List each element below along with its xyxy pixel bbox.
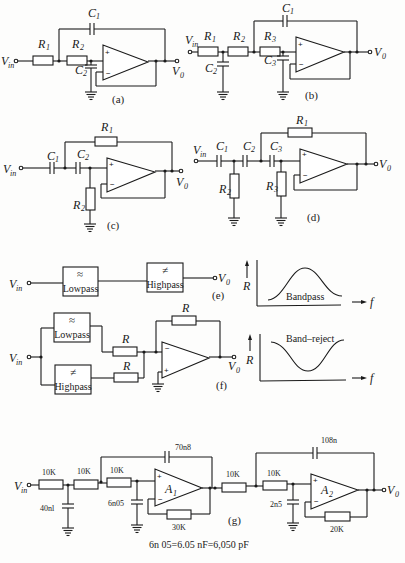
- svg-text:10K: 10K: [226, 470, 240, 479]
- x-axis-arrow-icon: [361, 376, 367, 380]
- circuit-figure: V in R 1 R 2 C 1 C 2 + −: [0, 0, 405, 563]
- svg-text:−: −: [106, 69, 111, 78]
- svg-text:−: −: [314, 497, 319, 506]
- svg-text:0: 0: [236, 366, 240, 375]
- svg-text:in: in: [16, 284, 22, 293]
- svg-text:+: +: [298, 40, 303, 49]
- svg-text:70n8: 70n8: [175, 443, 191, 452]
- panel-label-g: (g): [228, 514, 241, 527]
- svg-text:10K: 10K: [267, 469, 281, 478]
- vin-terminal: [14, 59, 18, 63]
- resistor-r-lowpass: [113, 347, 137, 356]
- svg-text:R: R: [218, 182, 227, 196]
- resistor-r1: [288, 128, 312, 137]
- svg-text:1: 1: [109, 126, 113, 135]
- panel-g: V in 10K 10K 10K 40nl 6n05: [14, 436, 399, 550]
- svg-text:R: R: [122, 359, 131, 373]
- lowpass-symbol-icon: ≈: [69, 314, 75, 326]
- panel-d: V in C 1 C 2 C 3 R 1 R 2: [193, 113, 391, 226]
- resistor-r-feedback: [172, 316, 196, 325]
- svg-text:+: +: [164, 366, 169, 375]
- svg-text:2: 2: [251, 145, 255, 154]
- svg-text:0: 0: [395, 490, 399, 499]
- svg-text:Lowpass: Lowpass: [63, 283, 99, 294]
- svg-text:in: in: [192, 40, 198, 49]
- svg-text:+: +: [157, 472, 162, 481]
- svg-text:0: 0: [180, 71, 184, 80]
- svg-text:20K: 20K: [330, 525, 344, 534]
- resistor-r2: [228, 47, 248, 56]
- resistor-10k-5: [263, 481, 287, 490]
- resistor-10k-1: [39, 480, 63, 489]
- svg-text:R: R: [71, 37, 80, 51]
- svg-text:2: 2: [329, 490, 333, 499]
- svg-text:1: 1: [55, 155, 59, 164]
- svg-text:−: −: [158, 495, 163, 504]
- svg-text:R: R: [242, 279, 251, 293]
- svg-text:1: 1: [290, 7, 294, 16]
- bandreject-curve: [271, 340, 344, 371]
- svg-text:in: in: [200, 150, 206, 159]
- svg-text:R: R: [232, 29, 241, 43]
- svg-text:Bandpass: Bandpass: [286, 291, 324, 302]
- panel-e: V in ≈ Lowpass ≠ Highpass V 0 (e): [9, 263, 230, 302]
- svg-text:2: 2: [85, 153, 89, 162]
- svg-text:R: R: [37, 37, 46, 51]
- svg-text:f: f: [370, 371, 375, 385]
- svg-text:Highpass: Highpass: [54, 381, 91, 392]
- panel-c: V in C 1 C 2 R 1 R 2 + −: [3, 120, 188, 232]
- svg-text:+: +: [105, 48, 110, 57]
- highpass-symbol-icon: ≠: [70, 366, 76, 378]
- svg-text:−: −: [303, 171, 308, 180]
- svg-text:−: −: [299, 60, 304, 69]
- svg-text:−: −: [165, 344, 170, 353]
- svg-text:6n05: 6n05: [108, 499, 124, 508]
- svg-text:Band–reject: Band–reject: [286, 333, 335, 344]
- panel-b: V in R 1 R 2 R 3 C 2 C 3: [185, 1, 386, 102]
- svg-text:R: R: [265, 179, 274, 193]
- resistor-10k-2: [74, 480, 98, 489]
- svg-text:2: 2: [81, 204, 85, 213]
- svg-text:in: in: [8, 61, 14, 70]
- svg-text:3: 3: [277, 145, 282, 154]
- panel-label-d: (d): [307, 211, 320, 224]
- svg-text:Highpass: Highpass: [146, 279, 183, 290]
- svg-text:3: 3: [271, 35, 276, 44]
- svg-text:R: R: [181, 301, 190, 315]
- svg-text:A: A: [320, 483, 329, 497]
- svg-text:R: R: [245, 353, 254, 367]
- panel-a: V in R 1 R 2 C 1 C 2 + −: [1, 6, 184, 106]
- svg-text:2n5: 2n5: [270, 500, 282, 509]
- svg-text:2: 2: [83, 69, 87, 78]
- svg-text:R: R: [100, 120, 109, 134]
- svg-text:1: 1: [212, 35, 216, 44]
- svg-text:R: R: [203, 29, 212, 43]
- panel-label-f: (f): [216, 379, 227, 392]
- svg-text:1: 1: [224, 145, 228, 154]
- svg-text:−: −: [110, 180, 115, 189]
- resistor-r2: [230, 174, 239, 198]
- vout-terminal: [175, 59, 179, 63]
- svg-text:2: 2: [241, 35, 245, 44]
- svg-text:in: in: [16, 358, 22, 367]
- svg-text:+: +: [313, 476, 318, 485]
- svg-text:2: 2: [227, 188, 231, 197]
- panel-label-c: (c): [107, 219, 120, 232]
- resistor-r2: [86, 188, 95, 210]
- svg-text:1: 1: [46, 43, 50, 52]
- svg-text:10K: 10K: [77, 467, 91, 476]
- svg-text:in: in: [21, 486, 27, 495]
- svg-text:40nl: 40nl: [40, 504, 55, 513]
- x-axis-arrow-icon: [361, 300, 367, 304]
- resistor-10k-4: [222, 483, 246, 492]
- y-axis-arrow-icon: [248, 334, 252, 340]
- resistor-r-highpass: [114, 373, 138, 382]
- svg-text:R: R: [121, 332, 130, 346]
- bandpass-plot: R f Bandpass: [242, 260, 375, 309]
- svg-text:2: 2: [213, 67, 217, 76]
- svg-text:0: 0: [184, 182, 188, 191]
- resistor-r3: [277, 172, 286, 196]
- panel-f: V in ≈ Lowpass ≠ Highpass R R R: [9, 301, 240, 394]
- svg-text:+: +: [109, 160, 114, 169]
- svg-text:3: 3: [271, 59, 276, 68]
